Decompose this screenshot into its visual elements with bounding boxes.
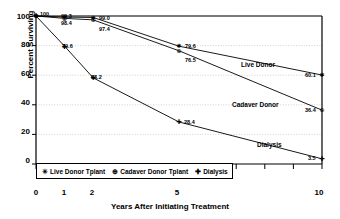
series-annotation-live-donor: Live Donor	[241, 61, 275, 68]
svg-text:✚: ✚	[33, 12, 39, 20]
svg-text:⊕: ⊕	[176, 47, 181, 54]
survival-line-chart: Percent Surviving 100 80 60 40 20 0 0 1 …	[0, 0, 340, 219]
point-label-live-year5: 79.6	[185, 43, 196, 49]
series-markers-live-donor: ✱ ✱ ✱ ✱ ✱	[33, 12, 324, 78]
series-annotation-cadaver-donor: Cadaver Donor	[232, 101, 279, 108]
svg-text:✚: ✚	[319, 155, 325, 163]
circle-cross-marker-icon: ⊕	[111, 168, 119, 175]
svg-text:✱: ✱	[319, 71, 324, 78]
series-annotation-dialysis: Dialysis	[257, 141, 282, 148]
point-label-dialysis-year2: 58.2	[91, 74, 102, 80]
legend-item-dialysis[interactable]: ✚ Dialysis	[194, 168, 228, 175]
series-line-dialysis	[36, 16, 322, 159]
plus-marker-icon: ✚	[194, 168, 202, 175]
point-label-dialysis-year5: 28.4	[184, 119, 195, 125]
series-markers-cadaver-donor: ⊕ ⊕ ⊕ ⊕ ⊕	[33, 12, 324, 113]
point-label-live-year2: 99.0	[99, 15, 110, 21]
point-label-live-year10: 60.1	[305, 72, 316, 78]
legend-item-live-donor[interactable]: ✳ Live Donor Tplant	[41, 168, 105, 175]
star-marker-icon: ✳	[41, 168, 49, 175]
gridlines	[36, 16, 322, 134]
series-line-cadaver-donor	[36, 16, 322, 110]
point-label-cadaver-year5: 76.5	[185, 57, 196, 63]
legend-label-dialysis: Dialysis	[203, 168, 228, 175]
point-label-cadaver-year2: 97.4	[99, 26, 110, 32]
point-label-cadaver-year10: 36.4	[305, 107, 316, 113]
point-label-dialysis-year1: 79.6	[62, 43, 73, 49]
point-label-cadaver-year1: 98.4	[61, 20, 72, 26]
point-label-dialysis-year10: 3.5	[308, 155, 316, 161]
svg-text:⊕: ⊕	[91, 16, 96, 23]
point-label-live-year1: 99.3	[61, 13, 72, 19]
point-label-origin-100: 100	[40, 11, 49, 17]
legend-label-cadaver-donor: Cadaver Donor Tplant	[120, 168, 188, 175]
svg-text:✚: ✚	[176, 118, 182, 126]
legend-item-cadaver-donor[interactable]: ⊕ Cadaver Donor Tplant	[111, 168, 188, 175]
plot-area: ✱ ✱ ✱ ✱ ✱ ⊕ ⊕ ⊕ ⊕ ⊕ ✚ ✚ ✚ ✚ ✚	[0, 0, 340, 219]
svg-text:⊕: ⊕	[319, 106, 324, 113]
legend-label-live-donor: Live Donor Tplant	[50, 168, 105, 175]
chart-legend: ✳ Live Donor Tplant ⊕ Cadaver Donor Tpla…	[36, 163, 233, 179]
